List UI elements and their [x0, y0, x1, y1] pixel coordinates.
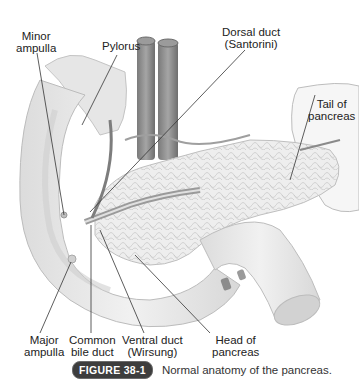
label-common-bile-duct: Common bile duct [69, 334, 116, 358]
label-ventral-duct: Ventral duct (Wirsung) [122, 334, 183, 358]
label-head-of-pancreas: Head of pancreas [212, 334, 259, 358]
figure-number-badge: FIGURE 38-1 [72, 361, 153, 379]
vena-cava [158, 42, 178, 160]
figure-caption-text: Normal anatomy of the pancreas. [162, 364, 332, 376]
pancreas-anatomy-figure: Minor ampulla Pylorus Dorsal duct (Santo… [0, 0, 359, 385]
label-major-ampulla: Major ampulla [24, 334, 64, 358]
aorta [137, 40, 155, 160]
label-pylorus: Pylorus [102, 40, 140, 52]
figure-caption: FIGURE 38-1 Normal anatomy of the pancre… [72, 362, 332, 378]
major-ampulla-dot [68, 255, 76, 263]
anatomy-illustration [0, 0, 359, 385]
label-minor-ampulla: Minor ampulla [16, 30, 56, 54]
label-tail-of-pancreas: Tail of pancreas [308, 98, 355, 122]
label-dorsal-duct: Dorsal duct (Santorini) [222, 26, 280, 50]
